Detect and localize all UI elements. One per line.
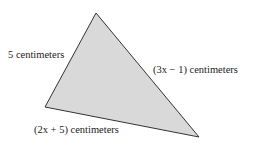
right-side-label: (3x − 1) centimeters bbox=[153, 64, 238, 75]
bottom-side-label: (2x + 5) centimeters bbox=[34, 124, 119, 135]
triangle bbox=[45, 13, 199, 137]
left-side-label: 5 centimeters bbox=[8, 49, 64, 60]
